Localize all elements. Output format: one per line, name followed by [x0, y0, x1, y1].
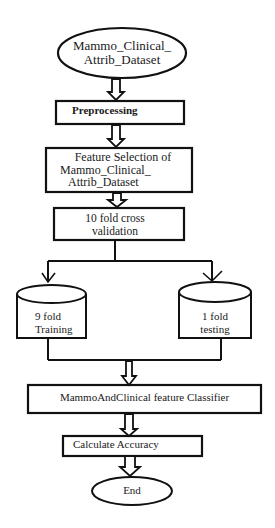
- feature-selection-node: Feature Selection of Mammo_Clinical_ Att…: [48, 151, 190, 189]
- testing-line2: testing: [180, 323, 250, 336]
- cross-validation-line2: validation: [56, 225, 174, 238]
- training-line1: 9 fold: [35, 310, 78, 323]
- accuracy-node: Calculate Accuracy: [66, 439, 196, 451]
- training-line2: Training: [35, 323, 78, 336]
- feature-selection-line3: Attrib_Dataset: [48, 176, 190, 189]
- start-node: Mammo_Clinical_ Attrib_Dataset: [57, 39, 187, 66]
- arrow-down-icon: [108, 125, 124, 147]
- testing-node: 1 fold testing: [180, 310, 250, 335]
- testing-line1: 1 fold: [180, 310, 250, 323]
- cross-validation-node: 10 fold cross validation: [56, 212, 174, 238]
- arrow-down-icon: [121, 414, 137, 436]
- arrow-down-icon: [108, 79, 124, 100]
- arrow-down-icon: [120, 456, 140, 476]
- classifier-node: MammoAndClinical feature Classifier: [30, 392, 259, 404]
- cross-validation-line1: 10 fold cross: [56, 212, 174, 225]
- end-node: End: [92, 485, 172, 497]
- arrow-down-icon: [122, 361, 136, 385]
- start-node-line2: Attrib_Dataset: [57, 53, 187, 67]
- start-node-line1: Mammo_Clinical_: [57, 39, 187, 53]
- preprocessing-node: Preprocessing: [58, 105, 182, 117]
- feature-selection-line1: Feature Selection of: [48, 151, 190, 164]
- arrow-down-icon: [108, 193, 126, 207]
- training-node: 9 fold Training: [18, 310, 78, 335]
